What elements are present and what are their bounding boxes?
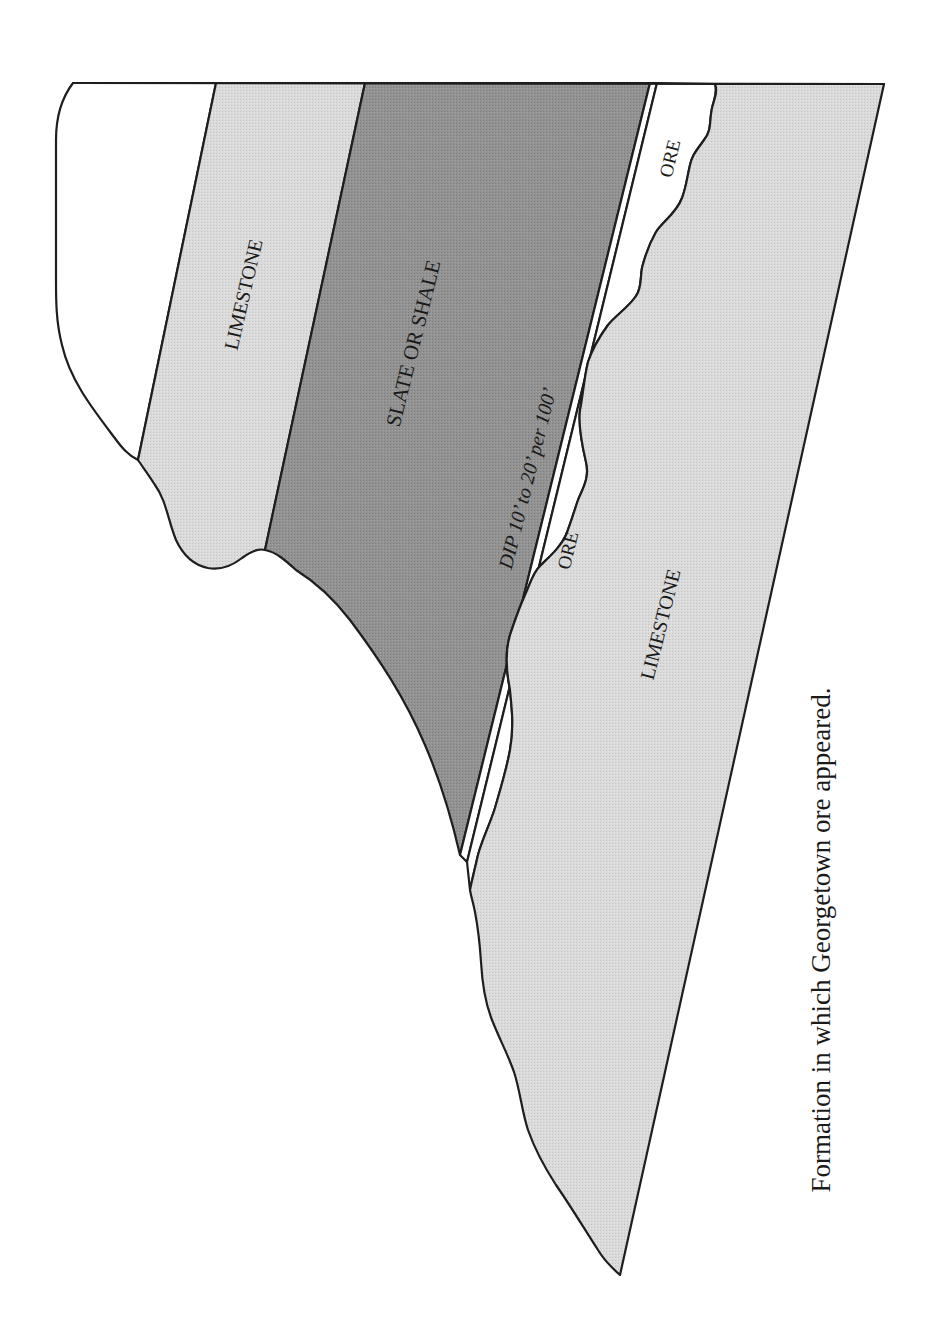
geologic-cross-section: LIMESTONE SLATE OR SHALE DIP 10’ to 20’ … xyxy=(0,0,930,1339)
top-surface-line xyxy=(73,83,884,84)
figure-caption: Formation in which Georgetown ore appear… xyxy=(806,688,836,1193)
